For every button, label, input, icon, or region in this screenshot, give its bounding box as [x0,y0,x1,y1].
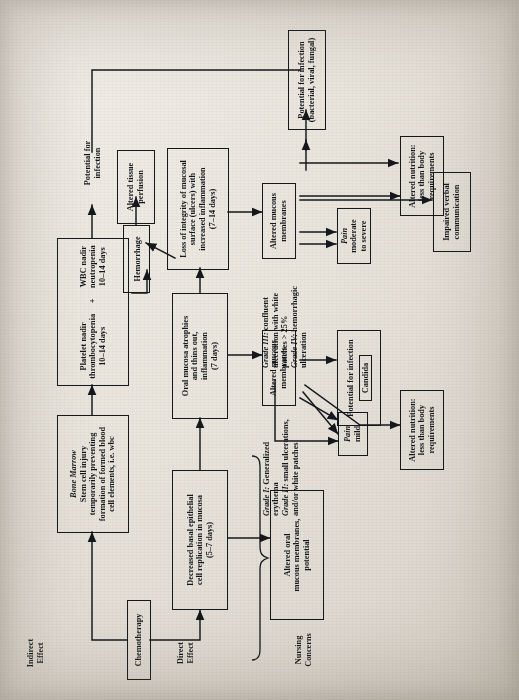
node-potential-for-infection-candida-seg-0: Potential for infection [346,339,356,416]
node-impaired-verbal-communication-content: Impaired verbal communication [433,172,471,252]
node-chemotherapy-content: Chemotherapy [127,600,151,680]
label-nursing-concerns: Nursing Concerns [290,615,318,685]
node-loss-of-integrity-seg-0: Loss of integrity of mucosal surface (ul… [179,160,217,258]
node-impaired-verbal-communication: Impaired verbal communication [433,172,471,252]
node-pain-mild: Painmild [338,412,368,456]
node-potential-for-infection-top-seg-0: Potential for infection [83,141,102,185]
node-pain-moderate-to-severe-seg-1: moderate to severe [349,219,368,253]
node-altered-tissue-perfusion: Altered tissue perfusion [117,150,155,224]
node-bone-marrow-content: Bone MarrowStem cell injury temporarily … [57,415,129,533]
node-altered-mucous-membranes-grade34-seg-0: Altered mucous membranes [269,193,288,249]
grade-iii-iv-note-seg: Grade IV: [290,334,299,368]
grade-i-ii-note: Grade I: Generalized erythemaGrade II: s… [262,408,300,518]
grade-iii-iv-note-text: Grade III: confluent ulceration with whi… [261,264,309,368]
scanned-page: Chemotherapy Indirect Effect Direct Effe… [0,0,519,700]
grade-i-ii-note-seg: Grade I: [262,487,271,516]
node-oral-mucosa-atrophies: Oral mucosa atrophies and thins out, inf… [172,293,228,419]
node-loss-of-integrity: Loss of integrity of mucosal surface (ul… [167,148,229,270]
label-direct-effect: Direct Effect [172,618,200,688]
grade-i-ii-note-seg: Grade II: [281,484,290,517]
grade-i-ii-note-text: Grade I: Generalized erythemaGrade II: s… [262,410,300,516]
node-nadir-compound-seg-2: WBC nadir neutropenia 10–14 days [79,245,108,288]
node-pain-mild-seg-1: mild [353,426,363,442]
label-nursing-concerns-content: Nursing Concerns [290,615,318,685]
node-decreased-basal-epithelial-seg-0: Decreased basal epithelial cell replicat… [186,494,215,586]
node-pain-moderate-to-severe-content: Painmoderate to severe [337,208,371,264]
node-hemorrhage: Hemorrhage [123,225,150,293]
node-bone-marrow-seg-0: Bone Marrow [69,450,79,498]
grade-iii-iv-note-seg: Grade III: [261,332,270,368]
node-impaired-verbal-communication-seg-0: Impaired verbal communication [442,183,461,241]
node-altered-nutrition-lower: Altered nutrition: less than body requir… [400,390,444,470]
node-altered-tissue-perfusion-content: Altered tissue perfusion [117,150,155,224]
node-hemorrhage-seg-0: Hemorrhage [132,236,142,281]
grade-i-ii-note-content: Grade I: Generalized erythemaGrade II: s… [262,408,300,518]
label-indirect-effect: Indirect Effect [22,618,50,688]
node-nadir-compound-seg-0: Platelet nadir thrombocytopenia 10–14 da… [79,314,108,379]
node-potential-for-infection-systemic-seg-0: Potential for infection (bacterial, vira… [297,38,316,122]
node-bone-marrow: Bone MarrowStem cell injury temporarily … [57,415,129,533]
node-decreased-basal-epithelial-content: Decreased basal epithelial cell replicat… [172,470,228,610]
node-oral-mucosa-atrophies-content: Oral mucosa atrophies and thins out, inf… [172,293,228,419]
node-altered-nutrition-lower-content: Altered nutrition: less than body requir… [400,390,444,470]
node-pain-mild-seg-0: Pain [343,426,353,442]
node-loss-of-integrity-content: Loss of integrity of mucosal surface (ul… [167,148,229,270]
node-nadir-compound-seg-1: + [88,299,98,304]
grade-iii-iv-note: Grade III: confluent ulceration with whi… [262,262,308,370]
node-potential-for-infection-systemic-content: Potential for infection (bacterial, vira… [288,30,326,130]
node-potential-for-infection-systemic: Potential for infection (bacterial, vira… [288,30,326,130]
figure-root: ChemotherapyBone MarrowStem cell injury … [0,0,519,700]
node-potential-for-infection-top: Potential for infection [62,120,124,206]
node-nadir-compound: Platelet nadir thrombocytopenia 10–14 da… [57,238,129,386]
node-altered-tissue-perfusion-seg-0: Altered tissue perfusion [126,163,145,211]
node-chemotherapy-seg-0: Chemotherapy [134,614,144,667]
node-potential-for-infection-candida-seg-1: Candida [359,355,373,401]
node-nadir-compound-content: Platelet nadir thrombocytopenia 10–14 da… [57,238,129,386]
node-altered-nutrition-lower-seg-0: Altered nutrition: less than body requir… [408,398,437,461]
node-hemorrhage-content: Hemorrhage [123,225,150,293]
node-pain-mild-content: Painmild [338,412,368,456]
node-altered-mucous-membranes-grade34-content: Altered mucous membranes [262,183,296,259]
node-decreased-basal-epithelial: Decreased basal epithelial cell replicat… [172,470,228,610]
node-altered-mucous-membranes-grade34: Altered mucous membranes [262,183,296,259]
label-direct-effect-content: Direct Effect [172,618,200,688]
node-oral-mucosa-atrophies-seg-0: Oral mucosa atrophies and thins out, inf… [181,316,219,397]
label-indirect-effect-seg-0: Indirect Effect [26,639,45,667]
node-pain-moderate-to-severe-seg-0: Pain [340,228,350,244]
node-pain-moderate-to-severe: Painmoderate to severe [337,208,371,264]
grade-iii-iv-note-content: Grade III: confluent ulceration with whi… [262,262,308,370]
node-bone-marrow-seg-1: Stem cell injury temporarily preventing … [79,427,117,521]
node-altered-oral-mucous-membranes-potential-seg-0: Altered oral mucous membranes, potential [283,519,312,592]
node-potential-for-infection-top-content: Potential for infection [62,120,124,206]
node-chemotherapy: Chemotherapy [127,600,151,680]
label-nursing-concerns-seg-0: Nursing Concerns [294,633,313,667]
label-indirect-effect-content: Indirect Effect [22,618,50,688]
label-direct-effect-seg-0: Direct Effect [176,642,195,664]
